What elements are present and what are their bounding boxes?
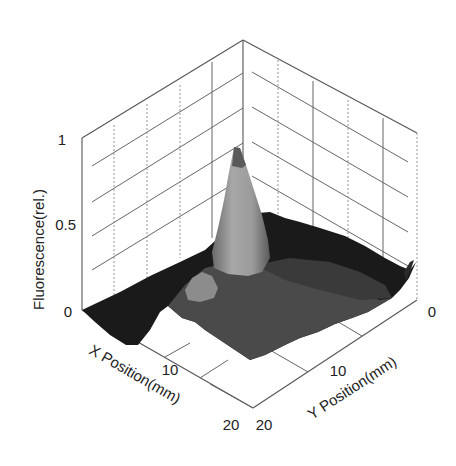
y-tick-10: 10: [330, 362, 347, 379]
z-tick-1: 1: [58, 131, 66, 148]
z-tick-0.5: 0.5: [55, 216, 76, 233]
x-tick-10: 10: [162, 361, 179, 378]
y-tick-0: 0: [428, 303, 436, 320]
x-tick-20: 20: [223, 416, 240, 433]
z-tick-0: 0: [64, 303, 72, 320]
fluorescence-surface: [82, 147, 416, 360]
surface-plot: 1 0.5 0 10 20 0 10 20 Fluorescence(rel.)…: [0, 0, 456, 466]
y-axis-label: Y Position(mm): [304, 353, 399, 423]
z-axis-label: Fluorescence(rel.): [30, 189, 47, 310]
y-tick-20: 20: [256, 416, 273, 433]
